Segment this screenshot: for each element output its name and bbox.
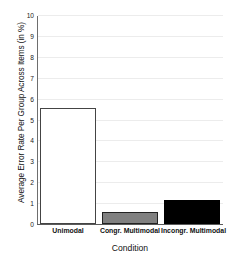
gridline-8: [38, 57, 223, 58]
x-tick-label-2: Incongr. Multimodal: [161, 228, 223, 235]
bar-0: [40, 108, 96, 224]
y-tick-label-2: 2: [20, 180, 34, 187]
gridline-10: [38, 15, 223, 16]
x-axis-line: [37, 224, 223, 225]
y-tick-label-1: 1: [20, 201, 34, 208]
bar-chart-figure: Average Error Rate Per Group Across Item…: [0, 0, 230, 265]
gridline-7: [38, 78, 223, 79]
y-tick-label-7: 7: [20, 75, 34, 82]
y-tick-label-3: 3: [20, 159, 34, 166]
y-tick-label-6: 6: [20, 96, 34, 103]
bar-1: [102, 212, 158, 224]
y-axis-line: [37, 16, 38, 225]
y-tick-label-0: 0: [20, 222, 34, 229]
x-tick-label-0: Unimodal: [37, 228, 99, 235]
y-tick-label-9: 9: [20, 34, 34, 41]
y-tick-label-5: 5: [20, 117, 34, 124]
y-axis-tick-labels: 012345678910: [19, 16, 34, 225]
y-tick-label-4: 4: [20, 138, 34, 145]
y-tick-label-8: 8: [20, 55, 34, 62]
bar-2: [164, 200, 220, 224]
x-axis-title: Condition: [37, 244, 223, 253]
gridline-9: [38, 36, 223, 37]
y-tick-label-10: 10: [20, 13, 34, 20]
plot-area: [37, 16, 223, 225]
x-tick-label-1: Congr. Multimodal: [99, 228, 161, 235]
x-axis-tick-labels: UnimodalCongr. MultimodalIncongr. Multim…: [37, 228, 230, 240]
gridline-6: [38, 99, 223, 100]
